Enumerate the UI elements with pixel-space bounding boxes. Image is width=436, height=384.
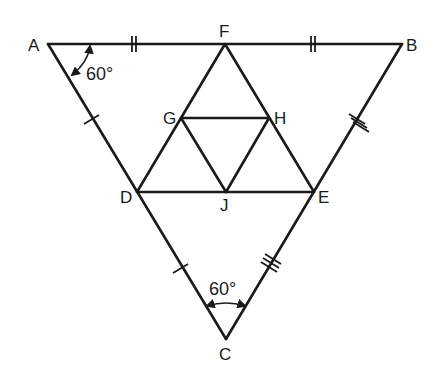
angle-marker-c: 60°: [207, 279, 245, 306]
label-j: J: [220, 196, 229, 215]
angle-label-a: 60°: [86, 64, 113, 84]
label-g: G: [163, 109, 176, 128]
label-f: F: [219, 22, 229, 41]
angle-label-c: 60°: [209, 279, 236, 299]
inner-triangle-ghj: [181, 118, 269, 192]
segment-hj: [226, 118, 269, 192]
angle-arc-c: [207, 303, 245, 306]
label-h: H: [274, 109, 286, 128]
label-c: C: [219, 345, 231, 364]
segment-jg: [181, 118, 226, 192]
angle-marker-a: 60°: [72, 46, 113, 84]
label-b: B: [406, 36, 417, 55]
label-d: D: [120, 188, 132, 207]
triangle-diagram: 60° 60° A B C F G H D E J: [0, 0, 436, 384]
label-a: A: [28, 36, 40, 55]
label-e: E: [318, 188, 329, 207]
